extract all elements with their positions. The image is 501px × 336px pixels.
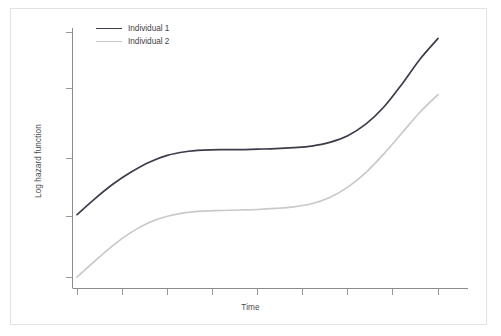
- legend-label-individual-2: Individual 2: [128, 36, 169, 47]
- legend-item-individual-2: Individual 2: [96, 36, 169, 47]
- y-axis-ticks: [66, 33, 72, 278]
- chart-legend: Individual 1 Individual 2: [96, 23, 169, 47]
- y-axis-label: Log hazard function: [34, 124, 43, 198]
- legend-swatch-individual-2: [96, 41, 122, 42]
- chart-figure: Individual 1 Individual 2 Log hazard fun…: [0, 0, 501, 336]
- x-axis-ticks: [78, 289, 439, 295]
- plot-area: [0, 0, 501, 336]
- legend-swatch-individual-1: [96, 28, 122, 29]
- series-line-individual-1: [77, 38, 438, 214]
- series-line-individual-2: [77, 95, 438, 278]
- x-axis-label: Time: [0, 303, 501, 312]
- legend-label-individual-1: Individual 1: [128, 23, 169, 34]
- legend-item-individual-1: Individual 1: [96, 23, 169, 34]
